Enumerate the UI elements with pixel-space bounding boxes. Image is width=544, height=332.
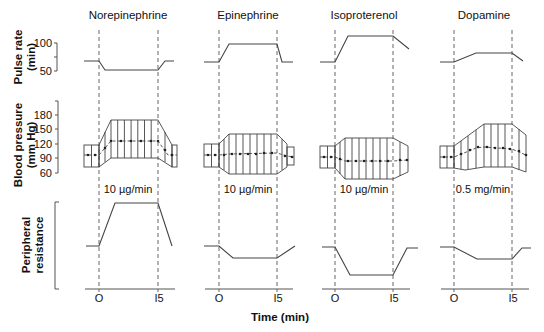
resistance-axis: Peripheral resistance <box>20 202 59 289</box>
bp-isoproterenol <box>320 138 408 179</box>
resistance-axis-title-2: resistance <box>33 217 45 274</box>
drug-effects-figure: Norepinephrine Epinephrine Isoproterenol… <box>0 0 544 332</box>
resistance-axis-title: Peripheral <box>20 217 32 273</box>
bp-dopamine <box>440 124 526 172</box>
pulse-traces <box>84 36 523 70</box>
bp-norepinephrine <box>84 120 177 167</box>
infusion-markers <box>99 30 512 292</box>
pulse-tick-100: 100 <box>34 37 52 49</box>
dose-dopamine: 0.5 mg/min <box>456 183 510 195</box>
tick-start-4: O <box>450 292 459 304</box>
bp-axis-title: Blood pressure <box>12 103 24 187</box>
tick-start-2: O <box>215 292 224 304</box>
pulse-epinephrine <box>204 44 293 62</box>
panel-titles: Norepinephrine Epinephrine Isoproterenol… <box>89 9 511 21</box>
bp-tick-150: 150 <box>34 123 52 135</box>
tick-end-4: I5 <box>508 292 517 304</box>
bp-tick-180: 180 <box>34 109 52 121</box>
title-norepinephrine: Norepinephrine <box>89 9 168 21</box>
time-ticks: O I5 O I5 O I5 O I5 <box>95 292 518 304</box>
pulse-axis: Pulse rate (min) 100 50 <box>12 30 57 85</box>
time-axis-title: Time (min) <box>251 311 309 323</box>
resistance-traces <box>86 203 531 275</box>
dose-labels: 10 µg/min 10 µg/min 10 µg/min 0.5 mg/min <box>104 183 510 195</box>
dose-isoproterenol: 10 µg/min <box>340 183 389 195</box>
tick-end-2: I5 <box>273 292 282 304</box>
pulse-isoproterenol <box>320 36 409 62</box>
bp-axis: Blood pressure (mm Hg) 180 150 120 90 60 <box>12 101 58 187</box>
pulse-dopamine <box>440 53 523 62</box>
dose-epinephrine: 10 µg/min <box>224 183 273 195</box>
title-epinephrine: Epinephrine <box>217 9 278 21</box>
bp-tick-60: 60 <box>40 167 52 179</box>
resistance-norepinephrine <box>86 203 172 246</box>
tick-end-3: I5 <box>389 292 398 304</box>
title-dopamine: Dopamine <box>458 9 510 21</box>
dose-norepinephrine: 10 µg/min <box>104 183 153 195</box>
resistance-epinephrine <box>204 246 295 258</box>
tick-end-1: I5 <box>154 292 163 304</box>
tick-start-1: O <box>95 292 104 304</box>
tick-start-3: O <box>331 292 340 304</box>
pulse-tick-50: 50 <box>40 65 52 77</box>
pulse-norepinephrine <box>84 61 174 70</box>
title-isoproterenol: Isoproterenol <box>330 9 397 21</box>
bp-tick-120: 120 <box>34 138 52 150</box>
bp-tick-90: 90 <box>40 152 52 164</box>
pulse-axis-title: Pulse rate <box>12 30 24 85</box>
resistance-isoproterenol <box>322 247 418 275</box>
